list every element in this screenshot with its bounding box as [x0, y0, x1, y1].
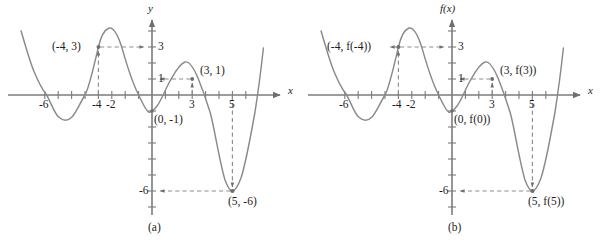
y-tick-label-1-b: 1: [458, 73, 464, 85]
point-label-3-b: (3, f(3)): [500, 65, 536, 77]
panel-caption-b: (b): [448, 222, 461, 234]
y-tick-label-3-b: 3: [458, 41, 464, 53]
y-axis-label-b: f(x): [440, 3, 455, 14]
x-tick-label-neg2-b: -2: [406, 99, 416, 111]
point-label-3-1-a: (3, 1): [200, 65, 225, 77]
point-label-neg4-3-a: (-4, 3): [52, 41, 81, 53]
point-label-5-neg6-a: (5, -6): [228, 196, 257, 208]
point-marker-3-1-a: [190, 77, 194, 81]
x-tick-label-neg4-a: -4: [92, 99, 102, 111]
point-marker-3-b: [490, 77, 494, 81]
point-marker-5-b: [530, 189, 534, 193]
point-marker-neg4-3-a: [97, 45, 101, 49]
point-label-5-b: (5, f(5)): [528, 196, 564, 208]
x-tick-label-neg6-b: -6: [339, 99, 349, 111]
x-axis-label-a: x: [288, 85, 293, 96]
point-marker-neg4-b: [397, 45, 401, 49]
x-axis-label-b: x: [588, 85, 593, 96]
y-tick-label-3-a: 3: [158, 41, 164, 53]
x-tick-label-neg2-a: -2: [106, 99, 116, 111]
x-tick-label-neg4-b: -4: [392, 99, 402, 111]
x-tick-label-neg6-a: -6: [39, 99, 49, 111]
panel-a: x y -6 -4 -2 3 5 3 1 -6 (-4, 3) (3, 1) (…: [0, 0, 300, 244]
point-label-0-neg1-a: (0, -1): [154, 114, 183, 126]
y-axis-label-a: y: [148, 3, 153, 14]
x-tick-label-5-a: 5: [229, 99, 235, 111]
x-tick-label-3-b: 3: [489, 99, 495, 111]
y-tick-label-neg6-b: -6: [439, 185, 449, 197]
panel-b: x f(x) -6 -4 -2 3 5 3 1 -6 (-4, f(-4)) (…: [300, 0, 600, 244]
y-tick-label-1-a: 1: [158, 73, 164, 85]
point-label-neg4-b: (-4, f(-4)): [327, 41, 371, 53]
point-marker-5-neg6-a: [230, 189, 234, 193]
y-tick-label-neg6-a: -6: [139, 185, 149, 197]
figure-container: x y -6 -4 -2 3 5 3 1 -6 (-4, 3) (3, 1) (…: [0, 0, 601, 244]
point-label-0-b: (0, f(0)): [454, 114, 490, 126]
panel-caption-a: (a): [148, 222, 161, 234]
x-tick-label-5-b: 5: [529, 99, 535, 111]
x-tick-label-3-a: 3: [189, 99, 195, 111]
